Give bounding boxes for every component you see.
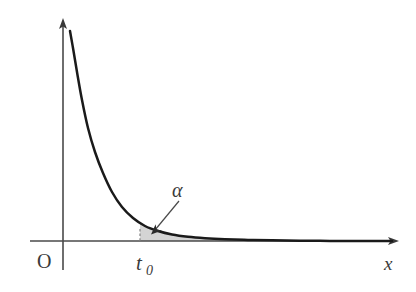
alpha-arrow-shaft <box>155 201 179 230</box>
tail-area-plot: O x t 0 α <box>0 0 416 292</box>
y-axis <box>59 18 67 270</box>
t0-label-base: t <box>136 251 143 275</box>
t0-label-subscript: 0 <box>146 263 153 278</box>
alpha-callout-arrow <box>151 201 179 235</box>
alpha-label: α <box>172 179 183 201</box>
figure-container: O x t 0 α <box>0 0 416 292</box>
decay-curve <box>70 31 392 241</box>
t0-label: t 0 <box>136 251 153 278</box>
x-axis-label: x <box>383 253 393 274</box>
origin-label: O <box>37 250 51 272</box>
